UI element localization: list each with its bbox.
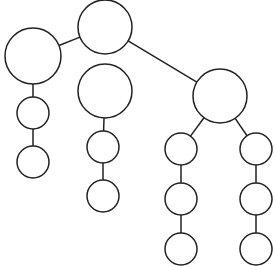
tree-nodes (5, 0, 272, 265)
node-right-large (193, 69, 247, 123)
node-left-large (5, 28, 61, 84)
node-root (78, 0, 132, 54)
node-right-right-1 (240, 133, 272, 165)
node-middle-small-2 (87, 180, 119, 212)
node-right-left-1 (165, 133, 197, 165)
node-middle-small-1 (87, 131, 119, 163)
node-left-small-2 (17, 146, 49, 178)
node-right-right-2 (240, 183, 272, 215)
node-middle-large (78, 64, 132, 118)
tree-edges (33, 37, 256, 233)
node-left-small-1 (17, 97, 49, 129)
node-right-left-2 (165, 183, 197, 215)
edge-root-to-right-large (128, 41, 197, 82)
edge-right-large-to-right-left-1 (190, 118, 204, 136)
tree-diagram (0, 0, 275, 266)
edge-right-large-to-right-right-1 (235, 118, 247, 135)
node-right-right-3 (240, 233, 272, 265)
edge-root-to-left-large (59, 37, 80, 45)
node-right-left-3 (165, 233, 197, 265)
